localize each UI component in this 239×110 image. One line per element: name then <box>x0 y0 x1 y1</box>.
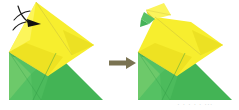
figure-caption: · · · · · ··· <box>152 101 238 110</box>
origami-photo-after: Origami model after fold <box>133 0 239 110</box>
origami-step-diagram: Origami model before fold <box>0 0 239 110</box>
origami-photo-before: Origami model before fold <box>0 0 112 110</box>
arrow-right-icon <box>109 57 136 69</box>
